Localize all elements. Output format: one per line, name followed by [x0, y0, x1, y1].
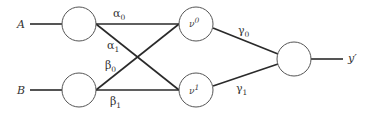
- weight-gamma1: γ1: [236, 82, 247, 97]
- weight-beta0: β0: [105, 59, 116, 74]
- weight-alpha0: α0: [113, 7, 125, 22]
- neural-network-diagram: A B ν0 ν1 y′ α0 α1 β0 β1 γ0 γ1: [0, 0, 369, 115]
- edge-gamma1: [213, 64, 278, 86]
- output-node: [277, 42, 311, 76]
- input-node-a: [62, 7, 96, 41]
- weight-gamma0: γ0: [238, 24, 250, 39]
- input-node-b: [62, 73, 96, 107]
- input-label-b: B: [16, 84, 25, 97]
- weight-beta1: β1: [110, 95, 121, 110]
- input-label-a: A: [16, 18, 25, 31]
- output-label: y′: [347, 52, 357, 65]
